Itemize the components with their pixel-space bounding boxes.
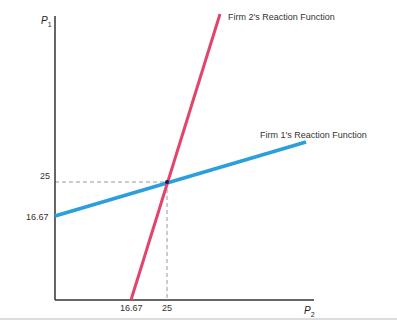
y-axis-label: P1 bbox=[41, 16, 52, 28]
equilibrium-point bbox=[165, 180, 169, 184]
y-tick-16-67: 16.67 bbox=[26, 213, 49, 222]
x-axis-label: P2 bbox=[304, 306, 315, 318]
x-tick-25: 25 bbox=[162, 304, 172, 313]
y-tick-25: 25 bbox=[40, 172, 50, 181]
x-tick-16-67: 16.67 bbox=[120, 304, 143, 313]
firm1-label: Firm 1's Reaction Function bbox=[260, 131, 367, 140]
firm1-reaction-line bbox=[55, 142, 306, 216]
reaction-function-diagram bbox=[0, 0, 397, 326]
firm2-reaction-line bbox=[131, 14, 220, 300]
firm2-label: Firm 2's Reaction Function bbox=[228, 13, 335, 22]
